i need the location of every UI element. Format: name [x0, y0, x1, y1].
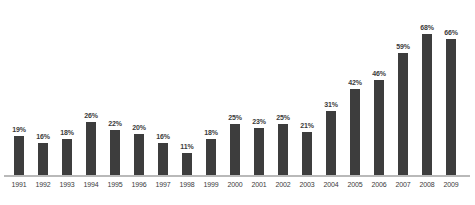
bar-1996 — [134, 134, 144, 176]
bar-column: 21% — [295, 121, 319, 176]
bar-value-label: 18% — [60, 128, 74, 137]
x-tick-2001: 2001 — [247, 180, 271, 190]
x-tick-2003: 2003 — [295, 180, 319, 190]
bar-value-label: 26% — [84, 111, 98, 120]
x-tick-2007: 2007 — [391, 180, 415, 190]
bar-value-label: 21% — [300, 121, 314, 130]
bar-value-label: 31% — [324, 100, 338, 109]
x-tick-2004: 2004 — [319, 180, 343, 190]
bar-group: 18% — [55, 0, 79, 177]
x-tick-1995: 1995 — [103, 180, 127, 190]
x-tick-1994: 1994 — [79, 180, 103, 190]
bar-column: 16% — [151, 132, 175, 176]
x-tick-1999: 1999 — [199, 180, 223, 190]
x-tick-1997: 1997 — [151, 180, 175, 190]
bar-group: 59% — [391, 0, 415, 177]
bar-2005 — [350, 89, 360, 177]
bar-group: 23% — [247, 0, 271, 177]
bar-2008 — [422, 34, 432, 176]
x-axis-labels: 1991199219931994199519961997199819992000… — [0, 180, 475, 200]
bar-group: 26% — [79, 0, 103, 177]
bar-group: 68% — [415, 0, 439, 177]
bar-group: 31% — [319, 0, 343, 177]
bar-column: 46% — [367, 69, 391, 176]
bar-column: 59% — [391, 42, 415, 176]
x-tick-2008: 2008 — [415, 180, 439, 190]
x-tick-1996: 1996 — [127, 180, 151, 190]
bar-value-label: 18% — [204, 128, 218, 137]
bar-group: 66% — [439, 0, 463, 177]
bar-column: 42% — [343, 78, 367, 177]
bar-group: 19% — [7, 0, 31, 177]
bar-column: 25% — [271, 113, 295, 176]
bar-group: 42% — [343, 0, 367, 177]
bar-group: 25% — [223, 0, 247, 177]
bar-group: 25% — [271, 0, 295, 177]
bar-column: 66% — [439, 28, 463, 177]
bar-1992 — [38, 143, 48, 176]
bar-column: 18% — [199, 128, 223, 177]
bar-2004 — [326, 111, 336, 176]
bar-value-label: 66% — [444, 28, 458, 37]
bar-1998 — [182, 153, 192, 176]
bar-2000 — [230, 124, 240, 176]
bar-2007 — [398, 53, 408, 176]
bar-column: 16% — [31, 132, 55, 176]
bar-column: 68% — [415, 23, 439, 176]
x-tick-2009: 2009 — [439, 180, 463, 190]
bar-value-label: 68% — [420, 23, 434, 32]
bar-group: 20% — [127, 0, 151, 177]
bar-column: 20% — [127, 123, 151, 176]
bar-2003 — [302, 132, 312, 176]
bar-1999 — [206, 139, 216, 177]
bar-value-label: 25% — [228, 113, 242, 122]
bar-value-label: 19% — [12, 125, 26, 134]
bar-group: 21% — [295, 0, 319, 177]
bar-1994 — [86, 122, 96, 176]
bar-1993 — [62, 139, 72, 177]
bar-value-label: 23% — [252, 117, 266, 126]
bar-value-label: 25% — [276, 113, 290, 122]
x-tick-2006: 2006 — [367, 180, 391, 190]
bar-column: 26% — [79, 111, 103, 176]
bar-column: 31% — [319, 100, 343, 176]
bar-group: 11% — [175, 0, 199, 177]
bar-value-label: 16% — [156, 132, 170, 141]
bar-2001 — [254, 128, 264, 176]
bar-value-label: 20% — [132, 123, 146, 132]
bar-value-label: 46% — [372, 69, 386, 78]
bar-column: 22% — [103, 119, 127, 176]
x-tick-1991: 1991 — [7, 180, 31, 190]
bar-column: 11% — [175, 142, 199, 176]
bar-group: 18% — [199, 0, 223, 177]
bar-1997 — [158, 143, 168, 176]
bar-group: 16% — [31, 0, 55, 177]
bar-2006 — [374, 80, 384, 176]
x-tick-1998: 1998 — [175, 180, 199, 190]
bar-chart: 19%16%18%26%22%20%16%11%18%25%23%25%21%3… — [0, 0, 475, 205]
bar-value-label: 16% — [36, 132, 50, 141]
plot-area: 19%16%18%26%22%20%16%11%18%25%23%25%21%3… — [0, 0, 475, 177]
x-tick-2002: 2002 — [271, 180, 295, 190]
x-tick-1993: 1993 — [55, 180, 79, 190]
bar-1991 — [14, 136, 24, 176]
x-tick-2000: 2000 — [223, 180, 247, 190]
bar-group: 46% — [367, 0, 391, 177]
bar-column: 23% — [247, 117, 271, 176]
bar-column: 19% — [7, 125, 31, 176]
bar-value-label: 59% — [396, 42, 410, 51]
x-tick-1992: 1992 — [31, 180, 55, 190]
bar-value-label: 11% — [180, 142, 193, 151]
bar-2002 — [278, 124, 288, 176]
bar-column: 18% — [55, 128, 79, 177]
bar-group: 16% — [151, 0, 175, 177]
bar-value-label: 42% — [348, 78, 362, 87]
x-axis-baseline — [4, 175, 470, 177]
bar-group: 22% — [103, 0, 127, 177]
bar-value-label: 22% — [108, 119, 122, 128]
x-tick-2005: 2005 — [343, 180, 367, 190]
bar-1995 — [110, 130, 120, 176]
bar-column: 25% — [223, 113, 247, 176]
bar-2009 — [446, 39, 456, 177]
